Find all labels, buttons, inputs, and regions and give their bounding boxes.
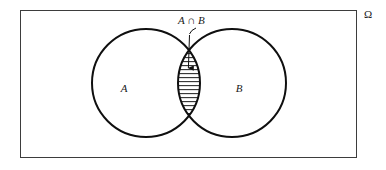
venn-diagram-canvas: A ∩ B A B Ω bbox=[0, 0, 386, 170]
intersection-label: A ∩ B bbox=[177, 14, 205, 26]
venn-diagram-figure: A ∩ B A B Ω bbox=[0, 0, 386, 170]
set-b-label: B bbox=[236, 82, 243, 94]
omega-label: Ω bbox=[364, 8, 372, 20]
set-a-label: A bbox=[120, 82, 128, 94]
